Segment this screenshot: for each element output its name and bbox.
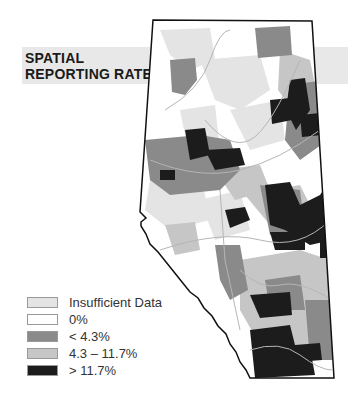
legend: Insufficient Data 0% < 4.3% 4.3 – 11.7% … [27,294,162,379]
legend-item-mid: 4.3 – 11.7% [27,345,162,362]
legend-item-low: < 4.3% [27,328,162,345]
legend-label: > 11.7% [69,363,116,378]
legend-item-insufficient: Insufficient Data [27,294,162,311]
map-regions [130,10,350,390]
legend-label: 0% [69,312,88,327]
legend-item-high: > 11.7% [27,362,162,379]
legend-swatch [27,297,58,308]
legend-swatch [27,365,58,376]
legend-swatch [27,314,58,325]
legend-item-zero: 0% [27,311,162,328]
legend-label: < 4.3% [69,329,110,344]
legend-label: Insufficient Data [69,295,162,310]
legend-swatch [27,348,58,359]
legend-swatch [27,331,58,342]
legend-label: 4.3 – 11.7% [69,346,137,361]
